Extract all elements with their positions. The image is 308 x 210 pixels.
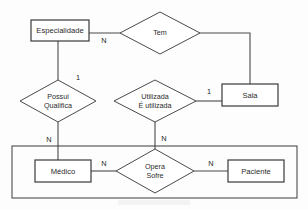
- connector-tem-sala: [200, 33, 250, 84]
- relationship-label-opera-sofre-1: Sofre: [146, 171, 163, 180]
- cardinality-card-possui-top: 1: [76, 73, 80, 82]
- cardinality-card-opera-paciente: N: [208, 159, 213, 168]
- footer-artifact: [118, 200, 190, 205]
- cardinality-card-utilizada-sala: 1: [207, 87, 211, 96]
- relationship-label-tem-0: Tem: [153, 28, 167, 37]
- entity-label-sala: Sala: [242, 91, 258, 100]
- relationship-label-utilizada-e-utilizada-1: É utilizada: [138, 101, 171, 110]
- cardinality-card-medico-opera: N: [101, 159, 106, 168]
- cardinality-card-possui-bottom: N: [46, 135, 51, 144]
- relationship-label-possui-qualifica-1: Qualifica: [44, 101, 72, 110]
- cardinality-card-utilizada-bottom: N: [161, 134, 166, 143]
- er-diagram-svg: EspecialidadeSalaMédicoPaciente TemPossu…: [0, 0, 308, 210]
- er-diagram-canvas: EspecialidadeSalaMédicoPaciente TemPossu…: [0, 0, 308, 210]
- cardinality-card-especialidade-tem: N: [101, 36, 106, 45]
- entity-label-paciente: Paciente: [241, 167, 271, 176]
- entity-label-especialidade: Especialidade: [36, 26, 83, 35]
- entity-label-medico: Médico: [51, 167, 75, 176]
